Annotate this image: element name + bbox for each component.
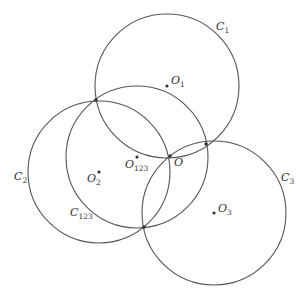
center-label-o1: O1 — [171, 74, 185, 89]
circle-label-c3: C3 — [281, 171, 294, 186]
circle-label-c123: C123 — [70, 206, 93, 221]
point-label-o: O — [174, 156, 183, 169]
intersection-point-p13 — [204, 142, 207, 145]
circles-layer — [28, 14, 286, 285]
circle-label-c1: C1 — [216, 20, 229, 35]
intersection-point-p23 — [142, 225, 145, 228]
intersection-point-o — [168, 154, 171, 157]
circle-label-c2: C2 — [14, 170, 27, 185]
center-point-o1 — [165, 84, 168, 87]
intersection-point-p12 — [94, 98, 97, 101]
center-label-o2: O2 — [87, 172, 101, 187]
three-circles-diagram: C1C2C123C3O1O2O123O3O — [0, 0, 303, 295]
center-point-o3 — [212, 211, 215, 214]
labels-layer: C1C2C123C3O1O2O123O3O — [14, 20, 294, 221]
center-point-o123 — [135, 155, 138, 158]
center-label-o3: O3 — [218, 202, 232, 217]
center-label-o123: O123 — [125, 158, 149, 173]
center-point-o2 — [97, 170, 100, 173]
